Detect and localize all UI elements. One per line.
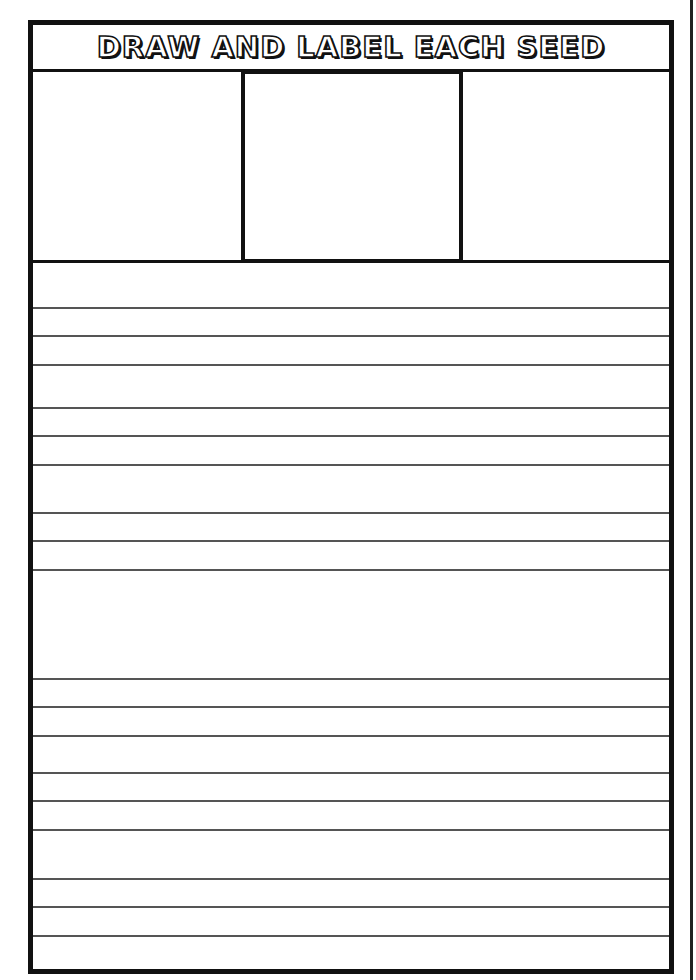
drawing-box-seed-3[interactable] [463, 72, 669, 260]
writing-line[interactable] [33, 407, 669, 409]
writing-line[interactable] [33, 706, 669, 708]
writing-line[interactable] [33, 335, 669, 337]
writing-line[interactable] [33, 678, 669, 680]
writing-line[interactable] [33, 829, 669, 831]
writing-line[interactable] [33, 569, 669, 571]
title-bar: DRAW AND LABEL EACH SEED [33, 25, 669, 72]
drawing-box-seed-2[interactable] [241, 70, 463, 263]
worksheet-frame: DRAW AND LABEL EACH SEED [28, 20, 674, 974]
writing-line[interactable] [33, 772, 669, 774]
writing-line[interactable] [33, 935, 669, 937]
writing-line[interactable] [33, 878, 669, 880]
page-edge [690, 0, 693, 980]
writing-line[interactable] [33, 800, 669, 802]
worksheet-title: DRAW AND LABEL EACH SEED [97, 30, 605, 64]
drawing-box-row [33, 72, 669, 263]
writing-line[interactable] [33, 735, 669, 737]
drawing-box-seed-1[interactable] [33, 72, 241, 260]
writing-line[interactable] [33, 464, 669, 466]
writing-line[interactable] [33, 307, 669, 309]
writing-line[interactable] [33, 906, 669, 908]
writing-line[interactable] [33, 435, 669, 437]
writing-line[interactable] [33, 364, 669, 366]
writing-line[interactable] [33, 512, 669, 514]
writing-line[interactable] [33, 540, 669, 542]
